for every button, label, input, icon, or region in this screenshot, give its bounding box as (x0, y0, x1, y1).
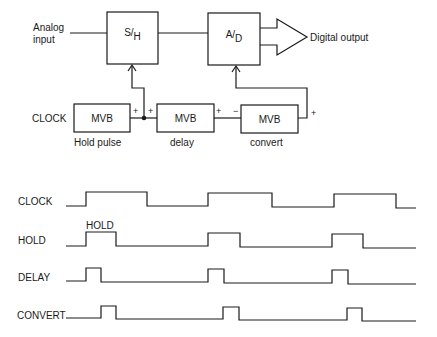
diagram-lines (0, 0, 437, 337)
plus-sign: + (148, 106, 153, 117)
clock-signal-label: CLOCK (18, 196, 52, 207)
delay-caption: delay (170, 137, 194, 148)
sample-hold-block: S/H (107, 27, 158, 38)
hold-pulse-caption: Hold pulse (74, 137, 121, 148)
mvb-convert-block: MVB (241, 114, 298, 125)
convert-signal-label: CONVERT (17, 310, 66, 321)
hold-signal-label: HOLD (18, 235, 46, 246)
mvb-hold-block: MVB (74, 113, 130, 124)
sample-hold-top: S (124, 27, 131, 38)
mvb-delay-block: MVB (157, 113, 214, 124)
convert-caption: convert (250, 137, 283, 148)
plus-sign: + (133, 106, 138, 117)
adc-block: A/D (208, 29, 260, 40)
analog-input-label-2: input (33, 34, 55, 45)
digital-output-label: Digital output (310, 32, 368, 43)
adc-top: A (226, 29, 233, 40)
clock-label: CLOCK (32, 113, 66, 124)
hold-annotation: HOLD (86, 220, 114, 231)
adc-bottom: D (235, 33, 242, 44)
analog-input-label: Analog (33, 22, 64, 33)
plus-sign: + (311, 108, 316, 119)
sample-hold-bottom: H (134, 31, 141, 42)
plus-sign: + (216, 106, 221, 117)
delay-signal-label: DELAY (18, 272, 50, 283)
minus-sign: − (233, 106, 238, 117)
